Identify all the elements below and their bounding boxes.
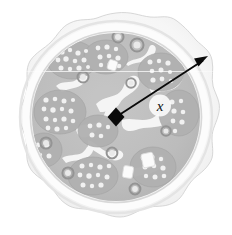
figure-container: x	[0, 0, 232, 235]
cheese-chunk	[122, 165, 134, 178]
cheese-chunk	[141, 152, 156, 168]
radius-label-x: x	[156, 98, 164, 114]
pizza-radius-figure: x	[0, 0, 232, 235]
center-point	[113, 114, 120, 121]
